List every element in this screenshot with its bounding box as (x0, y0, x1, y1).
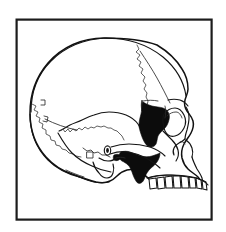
tooth (149, 178, 157, 189)
tooth (189, 177, 196, 188)
tooth (165, 176, 173, 188)
tooth (173, 176, 181, 188)
skull-illustration-figure: Lateral view of human skull (0, 0, 226, 232)
sphenoid-superior-spur (141, 100, 143, 111)
tooth (157, 177, 165, 189)
ear-canal-aperture (106, 148, 109, 153)
skull-illustration-svg: Lateral view of human skull (0, 0, 226, 232)
skull-outline-path (30, 38, 200, 185)
tooth (181, 176, 189, 188)
